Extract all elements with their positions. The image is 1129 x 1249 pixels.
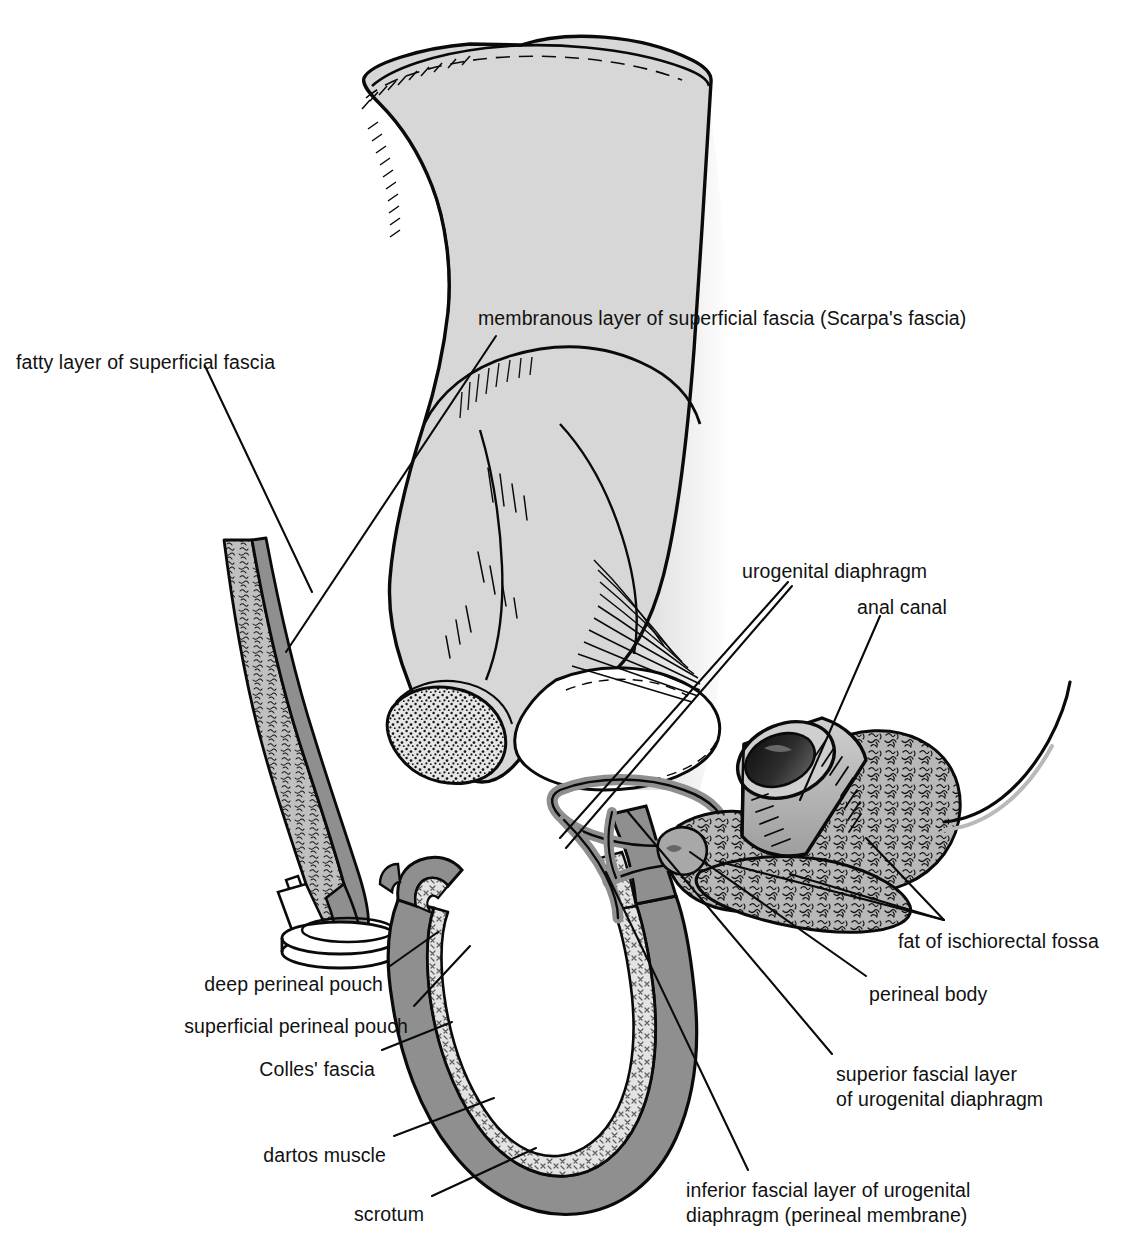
label-fatty-layer-of-superficial-fascia: fatty layer of superficial fascia — [16, 350, 275, 375]
label-line: diaphragm (perineal membrane) — [686, 1203, 970, 1228]
label-line: fatty layer of superficial fascia — [16, 350, 275, 375]
label-line: anal canal — [857, 595, 947, 620]
hip-bone — [362, 36, 720, 790]
rectum-tail — [944, 682, 1070, 830]
label-superior-fascial-layer: superior fascial layerof urogenital diap… — [836, 1062, 1043, 1112]
label-line: perineal body — [869, 982, 987, 1007]
label-line: membranous layer of superficial fascia (… — [478, 306, 966, 331]
label-superficial-perineal-pouch: superficial perineal pouch — [0, 1014, 408, 1039]
label-line: dartos muscle — [0, 1143, 386, 1168]
label-anal-canal: anal canal — [857, 595, 947, 620]
label-line: superficial perineal pouch — [0, 1014, 408, 1039]
label-urogenital-diaphragm: urogenital diaphragm — [742, 559, 927, 584]
label-dartos-muscle: dartos muscle — [0, 1143, 386, 1168]
label-line: urogenital diaphragm — [742, 559, 927, 584]
perineal-body-node — [658, 827, 707, 875]
label-membranous-layer-of-superficial-fascia: membranous layer of superficial fascia (… — [478, 306, 966, 331]
label-line: superior fascial layer — [836, 1062, 1043, 1087]
label-perineal-body: perineal body — [869, 982, 987, 1007]
abdominal-wall-flap — [224, 538, 398, 968]
label-deep-perineal-pouch: deep perineal pouch — [0, 972, 383, 997]
label-line: deep perineal pouch — [0, 972, 383, 997]
label-line: scrotum — [0, 1202, 424, 1227]
label-scrotum: scrotum — [0, 1202, 424, 1227]
label-fat-of-ischiorectal-fossa: fat of ischiorectal fossa — [898, 929, 1099, 954]
label-colles-fascia: Colles' fascia — [0, 1057, 375, 1082]
label-line: inferior fascial layer of urogenital — [686, 1178, 970, 1203]
label-line: Colles' fascia — [0, 1057, 375, 1082]
label-inferior-fascial-layer: inferior fascial layer of urogenitaldiap… — [686, 1178, 970, 1228]
artist-signature: VHC — [0, 0, 25, 2]
label-line: fat of ischiorectal fossa — [898, 929, 1099, 954]
label-line: of urogenital diaphragm — [836, 1087, 1043, 1112]
